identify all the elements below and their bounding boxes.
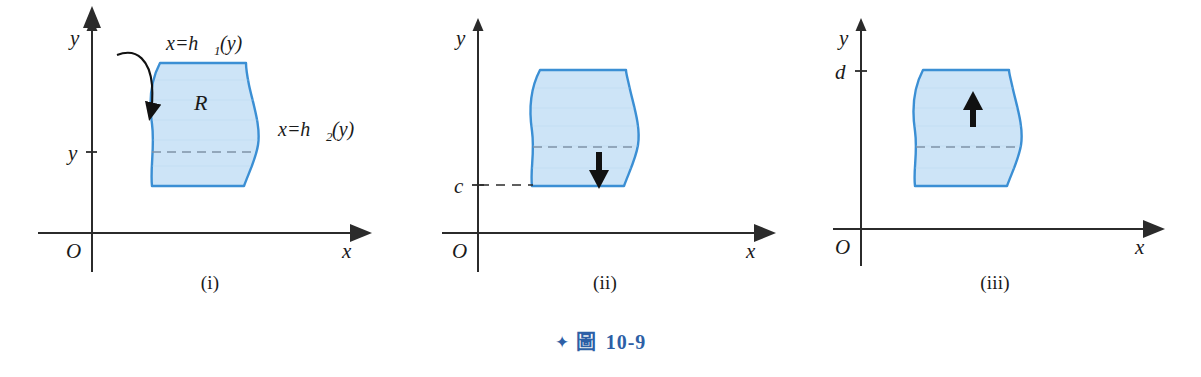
lower-boundary-tail: (y) <box>332 118 355 141</box>
panel-i: y x O y R x=h 1 (y) x=h 2 (y) (i) <box>0 0 400 310</box>
star-icon: ✦ <box>555 333 570 352</box>
figure-caption-label: 圖 <box>576 331 597 353</box>
panel-iii: y x O d (iii) <box>795 0 1195 310</box>
axis-label-y: y <box>68 26 80 50</box>
panel-i-caption: (i) <box>10 272 410 294</box>
y-tick-label: y <box>66 141 78 165</box>
y-axis-arrowhead <box>87 18 98 31</box>
panel-iii-diagram: y x O d <box>795 0 1195 310</box>
lower-boundary-label: x=h <box>277 118 310 140</box>
c-tick-label: c <box>454 174 464 198</box>
axis-label-y: y <box>454 26 466 50</box>
axis-label-x: x <box>745 239 756 263</box>
region-shape <box>531 70 639 186</box>
y-axis-arrowhead <box>856 18 867 31</box>
region-label: R <box>193 90 208 115</box>
panel-ii-diagram: y x O c <box>400 0 800 310</box>
upper-boundary-label: x=h <box>165 32 198 54</box>
origin-label: O <box>452 239 467 263</box>
figure-caption-number: 10-9 <box>606 331 647 353</box>
panel-iii-caption: (iii) <box>795 272 1195 294</box>
curved-pointer-arrow <box>117 53 152 117</box>
panel-i-diagram: y x O y R x=h 1 (y) x=h 2 (y) <box>0 0 400 310</box>
panel-ii: y x O c (ii) <box>400 0 800 310</box>
panel-ii-caption: (ii) <box>405 272 805 294</box>
figure-caption: ✦圖10-9 <box>0 326 1201 355</box>
origin-label: O <box>835 235 850 259</box>
region-shape <box>151 63 259 186</box>
region-shape <box>914 70 1022 186</box>
d-tick-label: d <box>835 60 846 84</box>
axis-label-x: x <box>1134 235 1145 259</box>
axis-label-x: x <box>341 239 352 263</box>
upper-boundary-tail: (y) <box>220 32 243 55</box>
figure-10-9: y x O y R x=h 1 (y) x=h 2 (y) (i) <box>0 0 1201 377</box>
y-axis-arrowhead <box>473 18 484 31</box>
origin-label: O <box>66 239 81 263</box>
axis-label-y: y <box>837 26 849 50</box>
